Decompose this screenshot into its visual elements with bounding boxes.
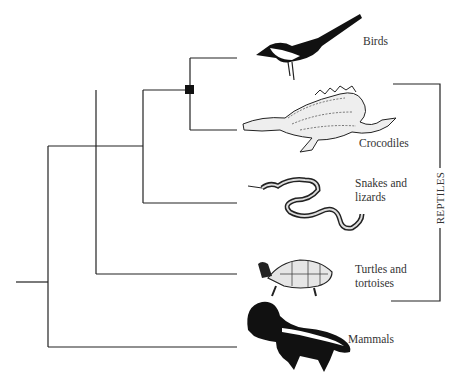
reptiles-group-label: REPTILES <box>434 168 446 228</box>
skunk-icon <box>247 302 350 372</box>
bird-icon <box>256 14 362 80</box>
label-snakes-line2: lizards <box>355 190 386 204</box>
label-crocodiles: Crocodiles <box>359 136 409 150</box>
node-marker-square <box>185 85 194 94</box>
label-snakes-line1: Snakes and <box>355 176 407 190</box>
turtle-icon <box>258 260 332 296</box>
cladogram-tree <box>0 0 457 385</box>
snake-icon <box>248 180 362 229</box>
label-mammals: Mammals <box>348 332 394 346</box>
label-turtles-line1: Turtles and <box>355 262 407 276</box>
label-birds: Birds <box>363 34 388 48</box>
label-turtles-line2: tortoises <box>355 276 394 290</box>
